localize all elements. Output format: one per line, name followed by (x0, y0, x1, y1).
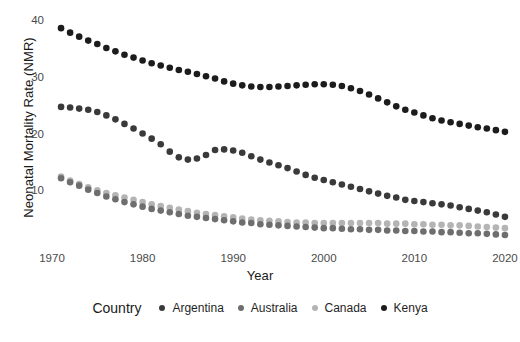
data-point (484, 209, 491, 216)
data-point (112, 196, 119, 203)
data-points-layer (52, 10, 514, 248)
data-point (339, 220, 346, 227)
data-point (493, 231, 500, 238)
legend-item-argentina[interactable]: Argentina (159, 301, 223, 315)
data-point (85, 106, 92, 113)
data-point (375, 227, 382, 234)
data-point (320, 177, 327, 184)
data-point (266, 84, 273, 91)
data-point (67, 29, 74, 36)
data-point (148, 206, 155, 213)
data-point (176, 67, 183, 74)
legend-item-australia[interactable]: Australia (238, 301, 298, 315)
data-point (484, 224, 491, 231)
data-point (185, 156, 192, 163)
data-point (148, 60, 155, 67)
legend-item-canada[interactable]: Canada (312, 301, 367, 315)
data-point (139, 203, 146, 210)
data-point (474, 207, 481, 214)
data-point (185, 212, 192, 219)
data-point (438, 221, 445, 228)
data-point (357, 220, 364, 227)
data-point (266, 159, 273, 166)
data-point (58, 175, 65, 182)
data-point (411, 109, 418, 116)
x-axis-title: Year (0, 268, 520, 283)
data-point (239, 219, 246, 226)
data-point (502, 225, 509, 232)
data-point (320, 81, 327, 88)
data-point (212, 75, 219, 82)
data-point (302, 224, 309, 231)
data-point (447, 202, 454, 209)
data-point (366, 227, 373, 234)
data-point (257, 84, 264, 91)
data-point (67, 104, 74, 111)
data-point (221, 78, 228, 85)
data-point (67, 179, 74, 186)
data-point (411, 228, 418, 235)
data-point (94, 109, 101, 116)
data-point (465, 230, 472, 237)
data-point (239, 82, 246, 89)
data-point (194, 155, 201, 162)
data-point (465, 206, 472, 213)
scatter-chart: Neonatal Mortality Rate (NMR) 10203040 1… (0, 0, 520, 342)
data-point (311, 174, 318, 181)
data-point (438, 117, 445, 124)
data-point (393, 194, 400, 201)
data-point (148, 135, 155, 142)
x-tick-label: 2010 (392, 252, 436, 264)
data-point (293, 82, 300, 89)
data-point (248, 83, 255, 90)
x-tick-label: 2000 (302, 252, 346, 264)
data-point (176, 154, 183, 161)
data-point (311, 81, 318, 88)
data-point (221, 217, 228, 224)
data-point (130, 54, 137, 61)
data-point (130, 201, 137, 208)
data-point (230, 80, 237, 87)
data-point (239, 150, 246, 157)
data-point (438, 229, 445, 236)
data-point (465, 122, 472, 129)
data-point (121, 121, 128, 128)
data-point (103, 112, 110, 119)
data-point (293, 223, 300, 230)
data-point (375, 220, 382, 227)
data-point (493, 224, 500, 231)
data-point (330, 225, 337, 232)
legend-item-label: Kenya (394, 301, 428, 315)
legend-marker-icon (381, 305, 387, 311)
data-point (94, 190, 101, 197)
data-point (257, 156, 264, 163)
legend-marker-icon (238, 305, 244, 311)
data-point (420, 221, 427, 228)
data-point (330, 179, 337, 186)
data-point (339, 181, 346, 188)
data-point (502, 214, 509, 221)
data-point (447, 229, 454, 236)
data-point (157, 207, 164, 214)
data-point (203, 152, 210, 159)
data-point (393, 103, 400, 110)
legend-item-kenya[interactable]: Kenya (381, 301, 428, 315)
data-point (194, 214, 201, 221)
legend-title: Country (92, 300, 141, 316)
data-point (339, 225, 346, 232)
data-point (275, 83, 282, 90)
data-point (402, 228, 409, 235)
data-point (502, 232, 509, 239)
data-point (429, 115, 436, 122)
data-point (121, 199, 128, 206)
data-point (493, 211, 500, 218)
data-point (493, 127, 500, 134)
data-point (302, 82, 309, 89)
data-point (502, 129, 509, 136)
data-point (429, 228, 436, 235)
data-point (384, 193, 391, 200)
data-point (221, 146, 228, 153)
x-tick-label: 1970 (30, 252, 74, 264)
data-point (393, 220, 400, 227)
plot-panel (52, 10, 514, 248)
